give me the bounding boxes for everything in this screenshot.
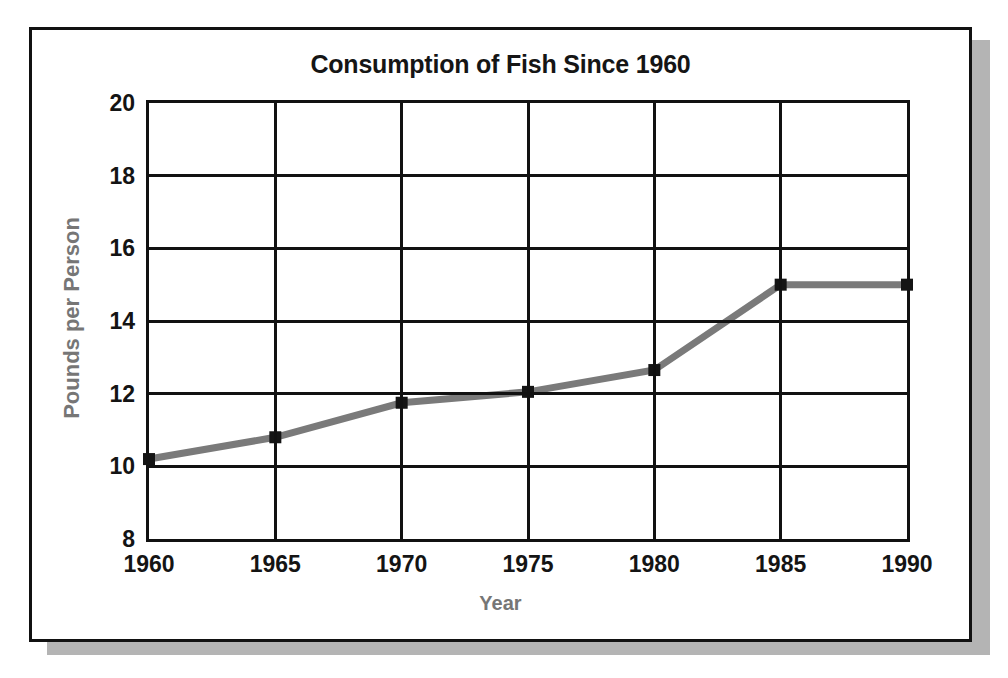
plot-area: 1960: 10.21965: 10.81970: 11.751975: 12.… — [146, 100, 910, 542]
x-tick-label: 1965 — [250, 551, 301, 578]
y-axis-label: Pounds per Person — [59, 217, 85, 419]
y-gridline — [149, 247, 907, 250]
x-axis-label: Year — [32, 592, 969, 615]
y-tick-label: 18 — [109, 162, 135, 189]
x-tick-label: 1985 — [755, 551, 806, 578]
x-tick-label: 1980 — [629, 551, 680, 578]
y-tick-label: 10 — [109, 453, 135, 480]
y-gridline — [149, 320, 907, 323]
x-tick-label: 1970 — [376, 551, 427, 578]
chart-page: Consumption of Fish Since 1960 Pounds pe… — [0, 0, 1008, 678]
y-tick-label: 14 — [109, 308, 135, 335]
x-tick-label: 1960 — [123, 551, 174, 578]
y-tick-label: 12 — [109, 380, 135, 407]
y-tick-label: 16 — [109, 235, 135, 262]
data-point-marker: 1960: 10.2 — [143, 453, 155, 465]
y-tick-label: 20 — [109, 90, 135, 117]
x-tick-label: 1990 — [881, 551, 932, 578]
chart-card: Consumption of Fish Since 1960 Pounds pe… — [29, 27, 972, 642]
y-gridline — [149, 174, 907, 177]
data-series-fish-consumption: 1960: 10.21965: 10.81970: 11.751975: 12.… — [141, 95, 931, 563]
data-point-marker: 1990: 15 — [901, 279, 913, 291]
y-tick-label: 8 — [122, 526, 135, 553]
y-gridline — [149, 465, 907, 468]
chart-title: Consumption of Fish Since 1960 — [32, 50, 969, 79]
y-gridline — [149, 392, 907, 395]
x-tick-label: 1975 — [502, 551, 553, 578]
